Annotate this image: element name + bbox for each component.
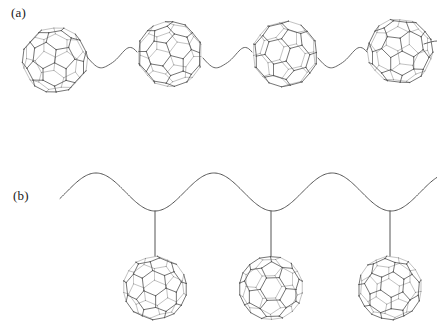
fullerene-polymer-figure — [0, 0, 437, 323]
panel-b-label: (b) — [13, 188, 29, 204]
panel-a-label: (a) — [11, 5, 26, 21]
